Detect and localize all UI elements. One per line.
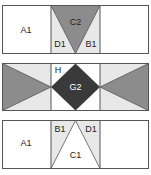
bottom-label-d1: D1 [85,124,97,134]
top-label-a1: A1 [20,25,31,35]
bottom-label-a1: A1 [20,138,31,148]
middle-block: H G2 [3,64,149,111]
middle-label-g2: G2 [69,82,81,92]
top-block: A1 C2 D1 B1 [3,6,149,54]
top-label-c2: C2 [70,17,82,27]
quilt-block-diagram: A1 C2 D1 B1 H G2 A1 B1 D1 C1 [0,0,151,175]
middle-label-h: H [55,65,62,75]
top-label-b1: B1 [85,39,96,49]
bottom-label-c1: C1 [70,150,82,160]
bottom-label-b1: B1 [54,124,65,134]
top-label-d1: D1 [54,39,66,49]
bottom-block: A1 B1 D1 C1 [3,121,149,169]
